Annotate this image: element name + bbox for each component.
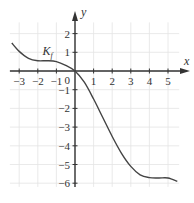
y-tick-label: −3 [58,121,70,133]
y-tick-label: −2 [58,102,70,114]
x-axis-arrow-icon [180,68,190,74]
y-tick-label: −4 [58,140,70,152]
curve-kf [12,43,178,181]
x-tick-label: 5 [165,75,171,87]
y-tick-label: −5 [58,159,70,171]
y-tick-label: 1 [65,46,71,58]
x-tick-label: 3 [128,75,134,87]
function-graph: −3−2−11234521−1−2−3−4−5−60xyKf [0,0,194,203]
y-axis-arrow-icon [72,11,78,21]
x-axis-label: x [183,54,190,68]
x-tick-label: −2 [32,75,44,87]
y-axis-label: y [80,5,87,19]
y-tick-label: 2 [65,28,71,40]
origin-label: 0 [65,74,71,86]
x-tick-label: −3 [13,75,25,87]
x-tick-label: 2 [109,75,115,87]
x-tick-label: 1 [91,75,97,87]
curve-label: Kf [41,44,54,60]
x-tick-label: 4 [147,75,153,87]
grid [10,22,179,187]
y-tick-label: −6 [58,177,70,189]
